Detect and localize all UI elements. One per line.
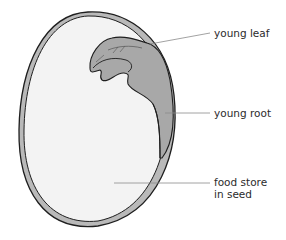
- leader-line-young-leaf: [150, 33, 210, 44]
- label-food-store-line2: in seed: [214, 188, 267, 200]
- label-young-root-text: young root: [214, 107, 271, 119]
- label-young-leaf: young leaf: [214, 27, 269, 39]
- label-young-root: young root: [214, 107, 271, 119]
- label-young-leaf-text: young leaf: [214, 27, 269, 39]
- label-food-store: food store in seed: [214, 176, 267, 200]
- label-food-store-line1: food store: [214, 176, 267, 188]
